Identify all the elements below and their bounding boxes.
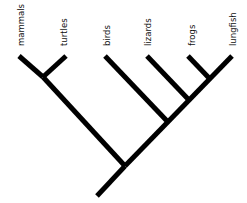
taxon-label-lungfish: lungfish bbox=[228, 12, 238, 46]
branch-line bbox=[147, 56, 188, 99]
taxon-label-mammals: mammals bbox=[16, 3, 26, 46]
branch-line bbox=[125, 56, 232, 166]
taxon-label-lizards: lizards bbox=[143, 18, 153, 46]
taxon-label-turtles: turtles bbox=[59, 18, 69, 46]
taxon-label-birds: birds bbox=[102, 25, 112, 46]
branch-line bbox=[43, 77, 125, 166]
cladogram: mammalsturtlesbirdslizardsfrogslungfish bbox=[0, 0, 247, 203]
branch-line bbox=[19, 56, 43, 77]
branch-line bbox=[43, 56, 66, 77]
branch-line bbox=[97, 166, 125, 196]
branch-line bbox=[188, 56, 209, 78]
taxon-label-frogs: frogs bbox=[187, 24, 197, 46]
